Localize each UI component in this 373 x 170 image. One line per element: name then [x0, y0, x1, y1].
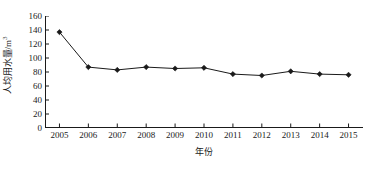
data-point-marker	[172, 66, 177, 71]
data-point-marker	[115, 67, 120, 72]
x-axis-tick-labels: 2005200620072008200920102011201220132014…	[45, 131, 363, 145]
data-point-marker	[317, 72, 322, 77]
y-axis-tick-label: 20	[16, 110, 42, 119]
y-axis-tick-label: 100	[16, 54, 42, 63]
y-axis-tick-label: 120	[16, 40, 42, 49]
data-point-marker	[259, 73, 264, 78]
line-chart: 人均用水量/m3 020406080100120140160 200520062…	[0, 0, 373, 170]
y-axis-title-text: 人均用水量/m3	[5, 36, 14, 94]
x-axis-title: 年份	[45, 148, 363, 157]
y-axis-tick-label: 0	[16, 124, 42, 133]
y-axis-tick-label: 60	[16, 82, 42, 91]
data-point-marker	[144, 65, 149, 70]
y-axis-tick-label: 140	[16, 26, 42, 35]
plot-area	[45, 16, 363, 128]
y-axis-tick-label: 80	[16, 68, 42, 77]
y-axis-tick-label: 160	[16, 12, 42, 21]
y-axis-title-label: 人均用水量/m	[4, 39, 14, 94]
data-point-marker	[230, 72, 235, 77]
data-point-marker	[346, 72, 351, 77]
y-axis-tick-labels: 020406080100120140160	[16, 16, 42, 128]
data-point-marker	[201, 65, 206, 70]
y-axis-title-exponent: 3	[2, 36, 9, 39]
data-series	[45, 16, 363, 128]
x-axis-tick-label: 2015	[329, 131, 369, 140]
y-axis-tick-label: 40	[16, 96, 42, 105]
data-point-marker	[288, 69, 293, 74]
